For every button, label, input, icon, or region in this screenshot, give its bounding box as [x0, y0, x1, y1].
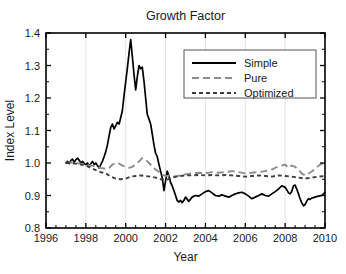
- legend-label-simple: Simple: [244, 57, 278, 69]
- y-axis-tick-labels: 0.80.91.01.11.21.31.4: [25, 27, 40, 234]
- x-tick-label: 2008: [273, 232, 297, 244]
- y-tick-label: 1.4: [25, 27, 40, 39]
- y-tick-label: 1.3: [25, 60, 40, 72]
- y-tick-label: 0.9: [25, 190, 40, 202]
- x-tick-label: 1998: [74, 232, 98, 244]
- legend-label-pure: Pure: [244, 72, 267, 84]
- chart-canvas: 19961998200020022004200620082010 0.80.91…: [0, 0, 346, 274]
- x-tick-label: 2002: [153, 232, 177, 244]
- x-axis-title: Year: [173, 250, 197, 264]
- x-tick-label: 2000: [113, 232, 137, 244]
- y-tick-label: 1.2: [25, 92, 40, 104]
- x-tick-label: 2010: [313, 232, 337, 244]
- series-line-pure: [66, 158, 325, 177]
- chart-title: Growth Factor: [146, 9, 225, 23]
- y-tick-label: 1.0: [25, 157, 40, 169]
- x-tick-label: 2006: [233, 232, 257, 244]
- y-axis-title: Index Level: [3, 100, 17, 161]
- y-tick-label: 1.1: [25, 125, 40, 137]
- legend: SimplePureOptimized: [184, 50, 316, 99]
- y-tick-label: 0.8: [25, 222, 40, 234]
- x-tick-label: 2004: [193, 232, 217, 244]
- growth-factor-chart-figure: 19961998200020022004200620082010 0.80.91…: [0, 0, 346, 274]
- x-axis-tick-labels: 19961998200020022004200620082010: [34, 232, 337, 244]
- legend-label-optimized: Optimized: [244, 87, 294, 99]
